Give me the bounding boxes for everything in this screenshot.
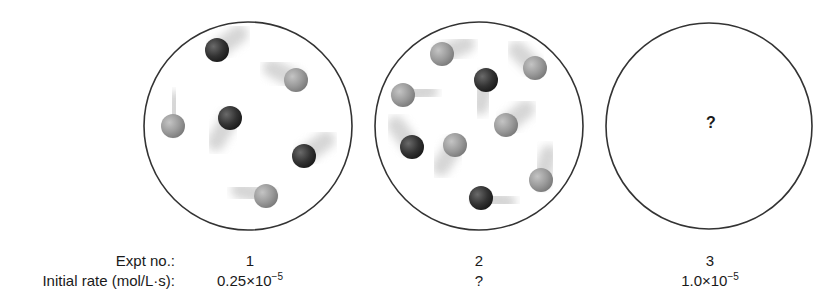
expt-2-number: 2 bbox=[475, 252, 483, 270]
dark-particle bbox=[474, 68, 498, 92]
expt-1-rate: 0.25×10−5 bbox=[217, 272, 283, 290]
light-particle bbox=[430, 42, 454, 66]
light-particle bbox=[391, 83, 415, 107]
expt-3-rate-mantissa: 1.0×10 bbox=[681, 272, 727, 289]
light-particle bbox=[254, 184, 278, 208]
unknown-mark: ? bbox=[706, 114, 716, 132]
expt-3-number: 3 bbox=[706, 252, 714, 270]
light-particle bbox=[529, 168, 553, 192]
dark-particle bbox=[292, 144, 316, 168]
container-2 bbox=[375, 22, 583, 230]
expt-3-rate-exponent: −5 bbox=[727, 271, 738, 282]
light-particle bbox=[284, 68, 308, 92]
expt-1-number: 1 bbox=[246, 252, 254, 270]
expt-2-rate: ? bbox=[475, 272, 483, 290]
dark-particle bbox=[205, 38, 229, 62]
dark-particle bbox=[218, 106, 242, 130]
dark-particle bbox=[469, 186, 493, 210]
expt-1-rate-exponent: −5 bbox=[272, 271, 283, 282]
light-particle bbox=[161, 114, 185, 138]
container-1 bbox=[144, 22, 352, 230]
dark-particle bbox=[400, 135, 424, 159]
expt-no-label: Expt no.: bbox=[116, 252, 175, 270]
light-particle bbox=[494, 113, 518, 137]
expt-3-rate: 1.0×10−5 bbox=[681, 272, 739, 290]
light-particle bbox=[443, 133, 467, 157]
initial-rate-label: Initial rate (mol/L·s): bbox=[42, 272, 175, 290]
light-particle bbox=[523, 56, 547, 80]
expt-1-rate-mantissa: 0.25×10 bbox=[217, 272, 272, 289]
